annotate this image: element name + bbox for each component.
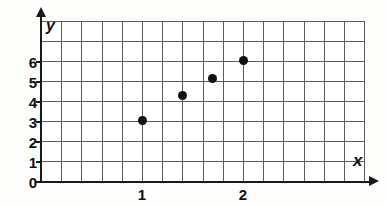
x-tick-label: 2 [235,187,251,202]
chart-figure: y x 6 5 4 3 2 1 0 1 2 [0,0,386,206]
data-point [239,56,248,65]
x-tick-label: 1 [134,187,150,202]
x-axis-tick-labels: 1 2 [0,0,386,206]
data-point [138,116,147,125]
